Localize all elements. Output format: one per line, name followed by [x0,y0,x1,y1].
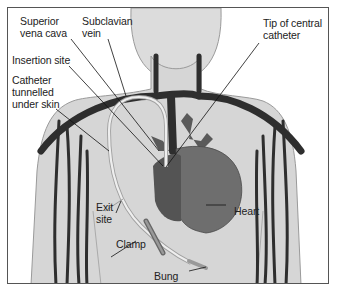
label-superior-vena-cava: Superior vena cava [20,15,67,39]
label-subclavian-vein: Subclavian vein [82,15,132,39]
label-bung: Bung [154,270,178,282]
label-tip-of-central-catheter: Tip of central catheter [263,17,322,41]
label-clamp: Clamp [116,238,146,250]
chest-illustration [8,8,329,284]
label-heart: Heart [234,205,259,217]
diagram-frame: Superior vena cava Subclavian vein Inser… [7,7,329,284]
label-catheter-tunnelled: Catheter tunnelled under skin [12,74,59,110]
label-insertion-site: Insertion site [12,54,70,66]
label-exit-site: Exit site [96,201,113,225]
